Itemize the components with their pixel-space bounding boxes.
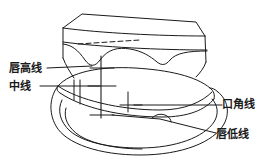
dashed-guide-line bbox=[78, 40, 140, 44]
diagram-linework bbox=[40, 14, 227, 155]
scalloped-gum-line bbox=[63, 44, 207, 65]
upper-block-left-lower-contour bbox=[63, 58, 74, 78]
upper-block-right-lower-contour bbox=[196, 62, 206, 77]
denture-reference-lines-figure: 唇高线 中线 口角线 唇低线 bbox=[0, 0, 268, 165]
base-plate-inner-outline bbox=[60, 99, 218, 148]
leader-line-lip-low bbox=[112, 115, 216, 133]
upper-block-right-edge bbox=[205, 36, 206, 62]
leader-line-lip-high bbox=[47, 66, 92, 68]
label-lip-low-line: 唇低线 bbox=[216, 129, 249, 140]
label-lip-high-line: 唇高线 bbox=[9, 63, 42, 74]
label-midline: 中线 bbox=[9, 81, 31, 92]
upper-block-top-face-front-edge bbox=[63, 28, 205, 36]
label-commissure-line: 口角线 bbox=[222, 99, 255, 110]
middle-rim-occlusal-curve bbox=[58, 86, 212, 110]
upper-block-front-band-line bbox=[63, 42, 207, 50]
upper-block-top-face-back-edge bbox=[63, 14, 205, 36]
middle-rim-top-arc bbox=[58, 68, 210, 88]
